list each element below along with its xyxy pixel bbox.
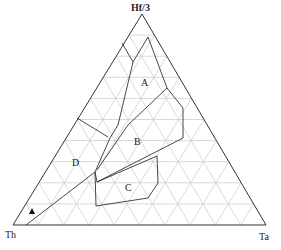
grid-line	[129, 35, 241, 225]
vertex-label-left: Th	[5, 230, 16, 240]
grid-line	[140, 120, 205, 226]
grid-line	[26, 204, 38, 225]
boundary-a-b	[97, 88, 167, 170]
grid-line	[241, 204, 254, 225]
grid-line	[78, 120, 140, 226]
region-label-c: C	[125, 183, 132, 193]
vertex-label-top: Hf/3	[131, 3, 150, 13]
vertex-label-right: Ta	[259, 232, 269, 242]
boundary-upper-left	[122, 43, 133, 62]
region-label-b: B	[134, 137, 141, 147]
grid-line	[89, 77, 179, 225]
ternary-grid	[26, 35, 254, 225]
region-boundaries	[26, 37, 183, 225]
boundary-d-left	[26, 37, 148, 225]
region-label-d: D	[72, 158, 79, 168]
region-label-a: A	[141, 78, 148, 88]
ternary-diagram	[0, 0, 281, 250]
boundary-a-right	[148, 37, 183, 138]
